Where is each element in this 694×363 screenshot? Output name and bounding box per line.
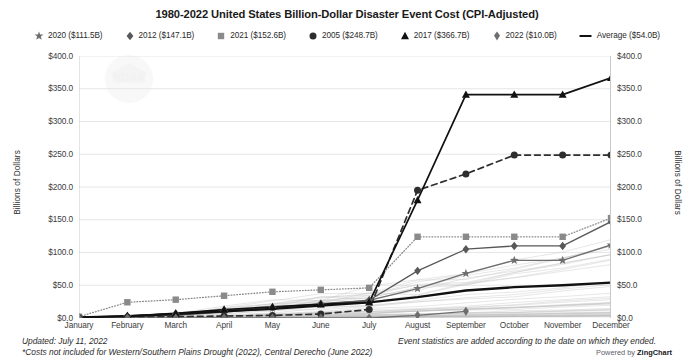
y-tick-right-8: $400.0 <box>617 51 642 61</box>
chart-footer: Updated: July 11, 2022 Event statistics … <box>0 336 694 363</box>
x-tick-june: June <box>312 320 330 330</box>
x-tick-july: July <box>362 320 376 330</box>
x-tick-september: September <box>446 320 486 330</box>
y-tick-right-2: $100.0 <box>617 247 642 257</box>
x-tick-may: May <box>265 320 280 330</box>
legend-item-6[interactable]: Average ($54.0B) <box>579 31 660 40</box>
series-markers <box>79 74 611 318</box>
line-icon <box>579 31 592 40</box>
x-tick-november: November <box>544 320 581 330</box>
powered-by-label: Powered by ZingChart <box>596 348 672 357</box>
y-tick-right-4: $200.0 <box>617 182 642 192</box>
star-marker-icon <box>34 31 43 40</box>
chart-legend: 2020 ($111.5B)2012 ($147.1B)2021 ($152.6… <box>0 28 694 43</box>
y-axis-left-title: Billions of Dollars <box>13 128 22 238</box>
legend-label-0: 2020 ($111.5B) <box>48 31 103 40</box>
y-tick-right-7: $350.0 <box>617 83 642 93</box>
legend-label-1: 2012 ($147.1B) <box>139 31 195 40</box>
y-tick-right-1: $50.0 <box>617 280 637 290</box>
legend-label-5: 2022 ($10.0B) <box>506 31 557 40</box>
y-tick-left-6: $300.0 <box>48 116 73 126</box>
x-tick-january: January <box>65 320 94 330</box>
y-axis-left: $0.0$50.0$100.0$150.0$200.0$250.0$300.0$… <box>20 56 73 318</box>
updated-label: Updated: July 11, 2022 <box>22 336 108 346</box>
y-tick-right-5: $250.0 <box>617 149 642 159</box>
powered-by-prefix: Powered by <box>596 348 637 357</box>
legend-item-4[interactable]: 2017 ($366.7B) <box>400 31 470 40</box>
y-tick-left-8: $400.0 <box>48 51 73 61</box>
costs-note-label: *Costs not included for Western/Southern… <box>22 347 372 357</box>
legend-item-0[interactable]: 2020 ($111.5B) <box>34 31 103 40</box>
diamond-tall-marker-icon <box>492 31 501 40</box>
x-tick-october: October <box>500 320 529 330</box>
x-axis: JanuaryFebruaryMarchAprilMayJuneJulyAugu… <box>79 320 611 334</box>
legend-label-4: 2017 ($366.7B) <box>414 31 470 40</box>
circle-marker-icon <box>308 31 317 40</box>
legend-item-2[interactable]: 2021 ($152.6B) <box>216 31 286 40</box>
y-tick-right-6: $300.0 <box>617 116 642 126</box>
y-tick-left-3: $150.0 <box>48 214 73 224</box>
powered-by-brand: ZingChart <box>637 348 672 357</box>
legend-item-1[interactable]: 2012 ($147.1B) <box>125 31 195 40</box>
legend-item-5[interactable]: 2022 ($10.0B) <box>492 31 557 40</box>
y-tick-left-2: $100.0 <box>48 247 73 257</box>
x-tick-august: August <box>405 320 430 330</box>
chart-title: 1980-2022 United States Billion-Dollar D… <box>0 8 694 20</box>
x-tick-december: December <box>592 320 629 330</box>
event-note-label: Event statistics are added according to … <box>398 336 672 346</box>
triangle-marker-icon <box>400 31 409 40</box>
legend-item-3[interactable]: 2005 ($248.7B) <box>308 31 378 40</box>
y-axis-right-title: Billions of Dollars <box>673 128 682 238</box>
x-tick-april: April <box>216 320 232 330</box>
legend-label-3: 2005 ($248.7B) <box>322 31 378 40</box>
y-axis-right: $0.0$50.0$100.0$150.0$200.0$250.0$300.0$… <box>617 56 667 318</box>
legend-label-6: Average ($54.0B) <box>597 31 660 40</box>
background-year-lines <box>79 240 611 318</box>
plot-area <box>79 56 611 318</box>
y-tick-left-1: $50.0 <box>53 280 73 290</box>
y-tick-left-7: $350.0 <box>48 83 73 93</box>
x-tick-march: March <box>164 320 187 330</box>
y-tick-left-5: $250.0 <box>48 149 73 159</box>
legend-label-2: 2021 ($152.6B) <box>230 31 286 40</box>
y-tick-right-3: $150.0 <box>617 214 642 224</box>
series-lines <box>79 78 611 318</box>
square-marker-icon <box>216 31 225 40</box>
diamond-marker-icon <box>125 31 134 40</box>
y-tick-left-4: $200.0 <box>48 182 73 192</box>
x-tick-february: February <box>111 320 143 330</box>
disaster-cost-chart: 1980-2022 United States Billion-Dollar D… <box>0 0 694 363</box>
